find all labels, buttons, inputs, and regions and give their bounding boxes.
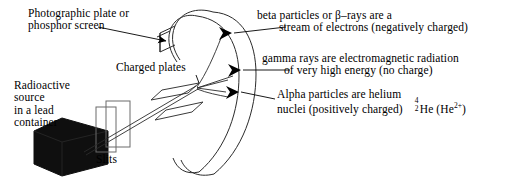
radioactive-source-line4: container — [14, 116, 70, 128]
helium-isotope-notation: 42He (He2+) — [415, 100, 466, 115]
beta-line2: stream of electrons (negatively charged) — [257, 21, 468, 33]
radioactive-source-line2: source — [14, 91, 70, 103]
charged-plates-label: Charged plates — [116, 61, 186, 73]
photographic-plate-label: Photographic plate or phosphor screen — [28, 7, 129, 32]
gamma-line2: of very high energy (no charge) — [262, 64, 459, 76]
radioactivity-deflection-diagram: Photographic plate or phosphor screen Ch… — [0, 0, 529, 183]
isotope-ion-close: ) — [462, 103, 466, 115]
slit-plate-back — [106, 101, 130, 147]
radioactive-source-label: Radioactive source in a lead container — [14, 79, 70, 129]
alpha-line1: Alpha particles are helium — [277, 88, 466, 100]
lower-charged-plate — [155, 102, 203, 120]
upper-charged-plate — [151, 83, 199, 100]
leader-charged-plates — [196, 75, 199, 83]
gamma-line1: gamma rays are electromagnetic radiation — [262, 52, 459, 64]
isotope-atomic-number: 2 — [415, 105, 419, 113]
radioactive-source-line3: in a lead — [14, 104, 70, 116]
gamma-description-label: gamma rays are electromagnetic radiation… — [262, 52, 459, 77]
isotope-indices: 42 — [415, 101, 420, 113]
leader-alpha — [241, 92, 275, 99]
alpha-line2-row: nuclei (positively charged)42He (He2+) — [277, 100, 466, 115]
isotope-ion-open: (He — [436, 103, 454, 115]
beta-line1: beta particles or β–rays are a — [257, 9, 468, 21]
isotope-ion-charge: 2+ — [454, 101, 462, 110]
photographic-plate-line1: Photographic plate or — [28, 7, 129, 19]
alpha-description-label: Alpha particles are helium nuclei (posit… — [277, 88, 466, 116]
isotope-symbol: He — [420, 103, 434, 115]
curved-phosphor-screen — [157, 10, 256, 175]
photographic-plate-line2: phosphor screen — [28, 19, 129, 31]
alpha-line2: nuclei (positively charged) — [277, 103, 403, 115]
beta-beam-path — [197, 38, 221, 87]
radioactive-source-line1: Radioactive — [14, 79, 70, 91]
beta-description-label: beta particles or β–rays are a stream of… — [257, 9, 468, 34]
slits-label: Slits — [96, 153, 117, 165]
